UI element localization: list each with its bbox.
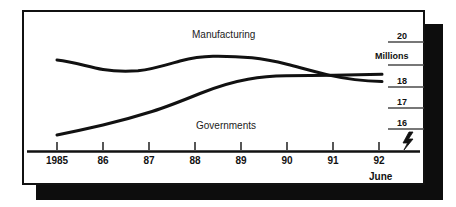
x-tick-label-86: 86 bbox=[88, 155, 118, 166]
panel-drop-shadow-bottom bbox=[36, 184, 443, 200]
panel-drop-shadow-right bbox=[425, 24, 443, 200]
chart-figure: 20 Millions 18 17 16 1985 86 87 88 89 90… bbox=[0, 0, 456, 207]
y-axis-unit-label: Millions bbox=[375, 51, 409, 61]
x-tick-label-90: 90 bbox=[272, 155, 302, 166]
x-tick-label-91: 91 bbox=[318, 155, 348, 166]
y-tick-label-17: 17 bbox=[385, 97, 407, 107]
y-tick-label-16: 16 bbox=[385, 118, 407, 128]
series-label-governments: Governments bbox=[196, 120, 256, 131]
x-tick-label-87: 87 bbox=[134, 155, 164, 166]
y-tick-label-20: 20 bbox=[385, 31, 407, 41]
x-tick-label-89: 89 bbox=[226, 155, 256, 166]
x-tick-label-1985: 1985 bbox=[37, 155, 77, 166]
y-tick-label-18: 18 bbox=[385, 76, 407, 86]
x-axis-note-june: June bbox=[369, 171, 392, 182]
x-tick-label-88: 88 bbox=[180, 155, 210, 166]
x-tick-label-92: 92 bbox=[364, 155, 394, 166]
series-label-manufacturing: Manufacturing bbox=[192, 29, 255, 40]
